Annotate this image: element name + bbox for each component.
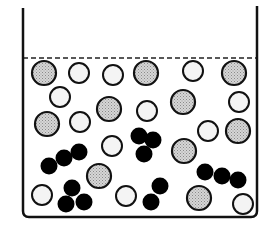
white-particle <box>198 121 218 141</box>
black-atom <box>152 178 169 195</box>
black-molecule <box>58 180 93 213</box>
black-atom <box>58 196 75 213</box>
gray-particle <box>187 186 211 210</box>
white-particle <box>116 186 136 206</box>
gray-particle <box>222 61 246 85</box>
white-particle <box>183 61 203 81</box>
white-particle <box>103 65 123 85</box>
gray-particle <box>172 139 196 163</box>
black-atom <box>145 132 162 149</box>
white-particle <box>70 112 90 132</box>
gray-particle <box>35 112 59 136</box>
black-atom <box>56 150 73 167</box>
black-atom <box>41 158 58 175</box>
white-particle <box>69 63 89 83</box>
gray-particle <box>97 97 121 121</box>
white-particle <box>229 92 249 112</box>
diagram-stage: Particles in a liquid-filled container <box>0 0 276 230</box>
white-particle <box>50 87 70 107</box>
gray-particle <box>171 90 195 114</box>
black-atom <box>71 144 88 161</box>
container-diagram <box>0 0 276 230</box>
black-atom <box>214 168 231 185</box>
black-molecule <box>41 144 88 175</box>
black-molecule <box>197 164 247 189</box>
gray-particle <box>134 61 158 85</box>
white-particle <box>102 136 122 156</box>
white-particle <box>233 194 253 214</box>
gray-particle <box>226 119 250 143</box>
black-atom <box>143 194 160 211</box>
black-molecule <box>131 128 162 163</box>
white-particle <box>137 101 157 121</box>
white-particle <box>32 185 52 205</box>
black-molecules-group <box>41 128 247 213</box>
black-atom <box>76 194 93 211</box>
black-atom <box>64 180 81 197</box>
gray-particle <box>87 164 111 188</box>
black-atom <box>230 172 247 189</box>
black-molecule <box>143 178 169 211</box>
gray-particle <box>32 61 56 85</box>
black-atom <box>136 146 153 163</box>
black-atom <box>197 164 214 181</box>
